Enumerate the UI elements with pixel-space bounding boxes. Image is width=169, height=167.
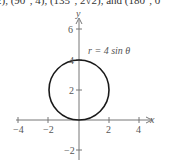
y-tick-label-4: 4 — [69, 55, 74, 66]
x-tick-label-neg4: −4 — [13, 124, 24, 135]
x-tick-label-neg2: −2 — [43, 124, 54, 135]
y-tick-label-6: 6 — [68, 24, 73, 35]
x-tick-label-2: 2 — [106, 124, 111, 135]
y-axis-label: y — [75, 8, 81, 19]
x-tick-label-4: 4 — [136, 124, 141, 135]
x-axis-label: x — [149, 114, 155, 125]
polar-graph: x y −4 −2 2 4 −2 2 4 6 r = 4 sin θ — [0, 0, 169, 167]
y-tick-label-neg2: −2 — [64, 145, 75, 156]
equation-label: r = 4 sin θ — [88, 45, 130, 56]
y-tick-label-2: 2 — [69, 85, 74, 96]
